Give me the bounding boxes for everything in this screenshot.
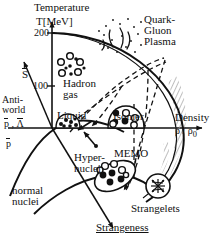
phase-diagram-figure: Temperature T[MeV] 200 100 S Anti- world…	[0, 0, 220, 242]
species-separator: ,	[9, 118, 17, 129]
region-label-anti-world: Anti- world	[2, 95, 25, 115]
lambda-bar-glyph: Λ	[17, 119, 24, 129]
region-label-isomer: Isomer	[113, 111, 144, 122]
region-label-memo: MEMO	[114, 148, 148, 159]
x-axis-unit-sub: 0	[193, 130, 197, 139]
y-axis-unit: T[MeV]	[36, 16, 73, 27]
region-label-hadron-gas: Hadron gas	[63, 78, 96, 100]
hadron-gas-markers	[58, 53, 86, 77]
hypernuclei-pointer	[84, 132, 95, 145]
region-label-liquid: Liquid	[57, 110, 86, 121]
y-axis-title: Temperature	[34, 2, 89, 13]
x-axis-unit-text: ρ / ρ	[175, 125, 193, 136]
y-tick-200: 200	[34, 28, 49, 38]
y-tick-100: 100	[33, 81, 48, 91]
axis-antistrangeness	[24, 62, 52, 128]
s-bar-glyph: S	[22, 69, 28, 80]
region-label-quark-gluon-plasma: Quark- Gluon Plasma	[144, 14, 176, 48]
x-axis-title: Density	[175, 112, 209, 123]
p-bar-glyph: p	[4, 119, 9, 129]
anti-world-species-line2: p	[6, 139, 11, 149]
region-label-strangelets: Strangelets	[131, 203, 180, 214]
hypernuclei-dot	[94, 144, 98, 148]
strangelet-cluster	[146, 174, 170, 198]
region-label-hypernuclei: Hyper- nuclei	[74, 152, 105, 174]
antistrangeness-axis-label: S	[22, 69, 28, 80]
qgp-speckle	[98, 18, 142, 53]
z-axis-title: Strangeness	[96, 222, 149, 233]
region-label-normal-nuclei: normal nuclei	[12, 185, 43, 207]
anti-world-species-line1: p , Λ	[4, 119, 24, 129]
x-axis-unit: ρ / ρ0	[175, 126, 197, 139]
p-bar-glyph-2: p	[6, 139, 11, 149]
